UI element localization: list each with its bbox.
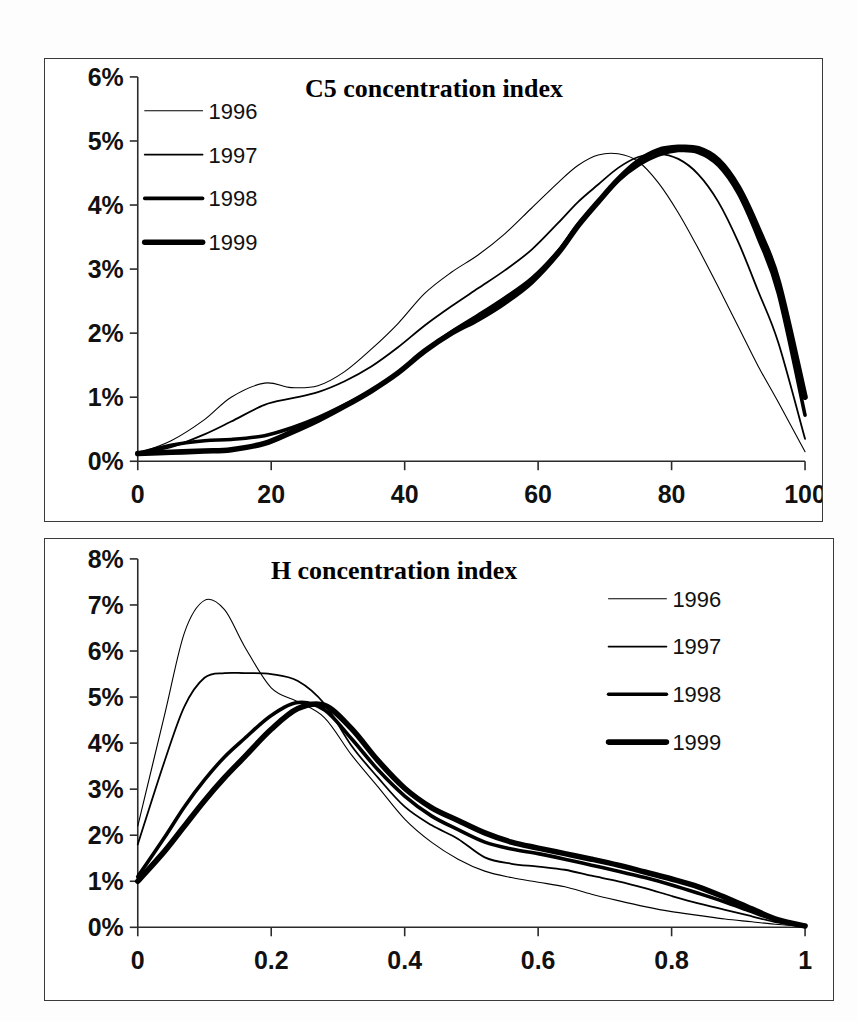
h-y-tick-label: 8% <box>88 545 124 573</box>
h-legend-label-1997: 1997 <box>672 635 721 660</box>
c5-x-tick-label: 0 <box>131 480 145 508</box>
c5-x-tick-label: 40 <box>391 480 419 508</box>
c5-x-tick-label: 20 <box>257 480 285 508</box>
h-y-tick-label: 4% <box>88 729 124 757</box>
c5-y-tick-label: 5% <box>88 127 124 155</box>
chart-c5-svg: 0%1%2%3%4%5%6%020406080100 1996199719981… <box>45 59 822 521</box>
h-x-tick-label: 0.4 <box>387 946 422 974</box>
c5-x-tick-label: 60 <box>524 480 552 508</box>
h-y-tick-label: 2% <box>88 821 124 849</box>
h-y-tick-label: 5% <box>88 683 124 711</box>
chart-c5-title: C5 concentration index <box>305 74 563 103</box>
h-legend-label-1999: 1999 <box>672 730 721 755</box>
c5-y-tick-label: 1% <box>88 383 124 411</box>
h-x-tick-label: 0 <box>131 946 145 974</box>
h-legend-label-1996: 1996 <box>672 587 721 612</box>
chart-h-legend: 1996199719981999 <box>609 587 722 755</box>
c5-y-tick-label: 2% <box>88 319 124 347</box>
h-x-tick-label: 0.8 <box>654 946 689 974</box>
h-y-tick-label: 7% <box>88 591 124 619</box>
chart-h-svg: 0%1%2%3%4%5%6%7%8%00.20.40.60.81 1996199… <box>45 539 833 1000</box>
h-y-tick-label: 6% <box>88 637 124 665</box>
h-y-tick-label: 3% <box>88 775 124 803</box>
chart-c5-concentration-index: 0%1%2%3%4%5%6%020406080100 1996199719981… <box>44 58 823 522</box>
chart-c5-legend: 1996199719981999 <box>145 99 258 255</box>
c5-legend-label-1999: 1999 <box>209 230 258 255</box>
h-x-tick-label: 1 <box>798 946 812 974</box>
h-y-tick-label: 1% <box>88 867 124 895</box>
document-page: 0%1%2%3%4%5%6%020406080100 1996199719981… <box>0 0 857 1021</box>
h-y-tick-label: 0% <box>88 913 124 941</box>
c5-x-tick-label: 100 <box>784 480 822 508</box>
c5-y-tick-label: 4% <box>88 191 124 219</box>
h-x-tick-label: 0.6 <box>521 946 556 974</box>
h-legend-label-1998: 1998 <box>672 682 721 707</box>
c5-y-tick-label: 3% <box>88 255 124 283</box>
c5-legend-label-1997: 1997 <box>209 143 258 168</box>
h-x-tick-label: 0.2 <box>254 946 289 974</box>
chart-h-title: H concentration index <box>271 556 517 585</box>
c5-y-tick-label: 0% <box>88 447 124 475</box>
c5-y-tick-label: 6% <box>88 63 124 91</box>
c5-legend-label-1996: 1996 <box>209 99 258 124</box>
c5-legend-label-1998: 1998 <box>209 186 258 211</box>
chart-h-concentration-index: 0%1%2%3%4%5%6%7%8%00.20.40.60.81 1996199… <box>44 538 834 1001</box>
c5-x-tick-label: 80 <box>658 480 686 508</box>
